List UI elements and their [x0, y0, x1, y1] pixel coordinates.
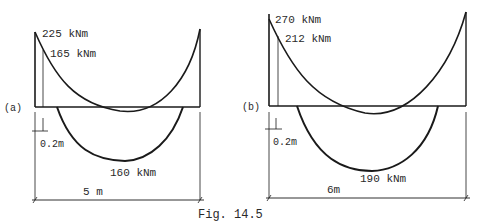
support-moment-label-b: 270 kNm [275, 14, 322, 26]
face-moment-label-b: 212 kNm [285, 33, 332, 45]
support-moment-label-a: 225 kNm [42, 28, 89, 40]
hogging-moment-curve-b [269, 12, 466, 114]
midspan-moment-label-b: 190 kNm [360, 173, 407, 185]
sagging-moment-curve-a [57, 107, 183, 161]
span-label-b: 6m [327, 184, 341, 196]
hogging-moment-curve-a [35, 29, 200, 111]
figure-caption: Fig. 14.5 [198, 208, 263, 222]
panel-tag-b: (b) [242, 102, 260, 113]
bending-moment-diagram-figure: 225 kNm 165 kNm (a) 0.2m 160 kNm 5 m 270… [0, 0, 484, 223]
span-label-a: 5 m [83, 186, 103, 198]
midspan-moment-label-a: 160 kNm [110, 167, 157, 179]
offset-label-b: 0.2m [273, 137, 297, 148]
offset-label-a: 0.2m [40, 139, 64, 150]
face-moment-label-a: 165 kNm [50, 48, 97, 60]
panel-tag-a: (a) [4, 103, 22, 114]
sagging-moment-curve-b [297, 106, 438, 171]
